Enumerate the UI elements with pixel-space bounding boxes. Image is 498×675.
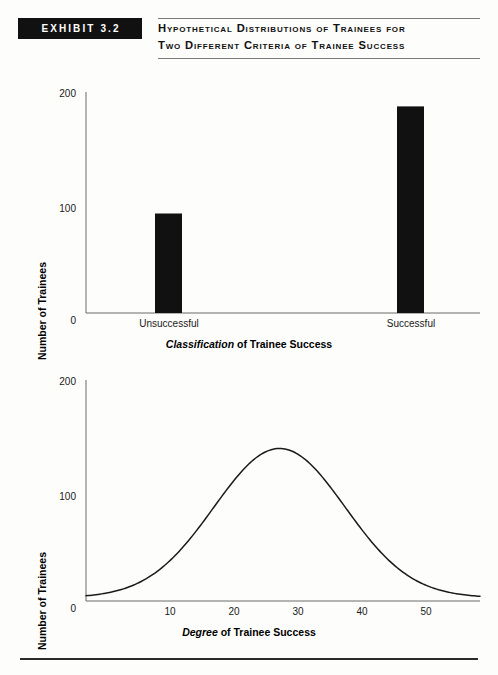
- line-chart-xtick-40: 40: [344, 606, 380, 617]
- exhibit-page: EXHIBIT 3.2 Hypothetical Distributions o…: [0, 0, 498, 675]
- line-chart-xtick-50: 50: [408, 606, 444, 617]
- footer-rule: [20, 658, 478, 660]
- exhibit-header: EXHIBIT 3.2 Hypothetical Distributions o…: [0, 0, 498, 72]
- exhibit-title-line-2: Two Different Criteria of Trainee Succes…: [158, 37, 488, 54]
- line-chart-xtick-10: 10: [152, 606, 188, 617]
- bar-successful: [397, 106, 424, 313]
- exhibit-title-line-1: Hypothetical Distributions of Trainees f…: [158, 20, 488, 37]
- bar-chart-x-axis-title: Classification of Trainee Success: [0, 338, 498, 350]
- exhibit-title: Hypothetical Distributions of Trainees f…: [158, 20, 488, 54]
- bar-chart: Number of Trainees 200 100 0 Unsuccessfu…: [0, 80, 498, 355]
- bar-chart-category-successful: Successful: [362, 318, 460, 329]
- line-chart-x-axis-title-emphasis: Degree: [182, 626, 218, 638]
- line-chart-plot-area: [0, 368, 498, 618]
- line-chart-xtick-20: 20: [216, 606, 252, 617]
- bar-chart-x-axis-title-emphasis: Classification: [166, 338, 234, 350]
- bar-chart-category-unsuccessful: Unsuccessful: [118, 318, 220, 329]
- header-rule-top: [158, 18, 480, 19]
- line-chart: Number of Trainees 200 100 0 10 20 30 40…: [0, 368, 498, 648]
- bar-chart-x-axis-title-rest: of Trainee Success: [234, 338, 332, 350]
- header-rule-bottom: [158, 58, 480, 59]
- line-chart-xtick-30: 30: [280, 606, 316, 617]
- bar-chart-plot-area: [0, 80, 498, 330]
- bar-unsuccessful: [155, 214, 182, 314]
- normal-distribution-curve: [86, 449, 480, 597]
- line-chart-x-axis-title-rest: of Trainee Success: [218, 626, 316, 638]
- line-chart-x-axis-title: Degree of Trainee Success: [0, 626, 498, 638]
- exhibit-number-badge: EXHIBIT 3.2: [18, 18, 142, 39]
